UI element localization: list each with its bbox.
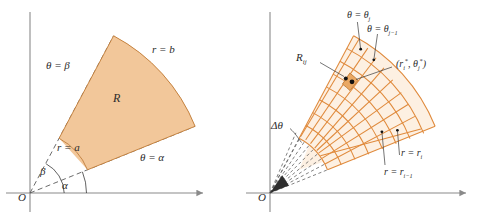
label-origin-right: O — [258, 192, 266, 203]
label-theta-equals-beta: θ = β — [46, 60, 70, 71]
theta-j-minus-1-sub: j−1 — [389, 29, 398, 36]
left-panel — [6, 12, 203, 212]
theta-j-sub: j — [369, 15, 371, 22]
label-origin-left: O — [18, 192, 26, 203]
label-r-equals-b: r = b — [152, 44, 175, 55]
origin-wedge — [270, 175, 289, 193]
label-delta-theta: Δθ — [271, 120, 283, 131]
label-angle-alpha: α — [62, 180, 68, 191]
label-theta-equals-alpha: θ = α — [140, 152, 164, 163]
sample-point-mid: , θ — [408, 58, 418, 69]
label-sample-point: (ri*, θj*) — [396, 58, 426, 72]
sample-point-dot — [350, 79, 355, 84]
theta-j-minus-1-main: θ = θ — [367, 23, 389, 34]
label-Rij: Rij — [296, 52, 307, 66]
Rij-main: R — [296, 51, 303, 63]
leader-theta-j-minus-1-dot — [372, 58, 375, 61]
r-equals-ri-minus-1-main: r = r — [384, 166, 404, 177]
label-r-equals-ri: r = ri — [401, 148, 422, 160]
Rij-sub: ij — [303, 58, 307, 65]
label-r-equals-ri-minus-1: r = ri−1 — [384, 167, 413, 179]
angle-arc-alpha — [82, 172, 86, 193]
leader-r-equals-ri-minus-1-dot — [381, 130, 384, 133]
label-theta-equals-theta-j: θ = θj — [347, 10, 370, 22]
leader-theta-j-dot — [359, 48, 362, 51]
leader-delta-theta — [290, 129, 302, 143]
r-equals-ri-minus-1-sub: i−1 — [404, 172, 413, 179]
theta-j-main: θ = θ — [347, 9, 369, 20]
right-panel — [246, 12, 466, 212]
sample-point-close: ) — [423, 58, 426, 69]
leader-r-equals-ri-dot — [396, 129, 399, 132]
sample-point-dot-secondary — [344, 77, 348, 81]
r-equals-ri-sub: i — [421, 153, 423, 160]
label-angle-beta: β — [40, 166, 45, 177]
polar-region-figure — [0, 0, 478, 223]
label-r-equals-a: r = a — [57, 142, 80, 153]
label-region-R: R — [113, 92, 120, 104]
sample-point-j-sub: j — [418, 64, 420, 71]
sample-point-i-sub: i — [403, 64, 405, 71]
label-theta-equals-theta-j-minus-1: θ = θj−1 — [367, 24, 398, 36]
r-equals-ri-main: r = r — [401, 147, 421, 158]
